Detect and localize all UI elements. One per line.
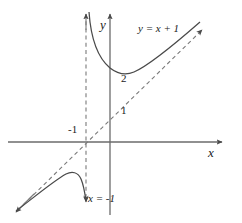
- y-tick-label-2: 2: [121, 73, 127, 84]
- y-tick-label-1: 1: [121, 105, 127, 116]
- x-tick-label-neg-1: -1: [68, 124, 77, 135]
- y-axis-label: y: [100, 18, 106, 31]
- vertical-asymptote-equation-label: x = -1: [88, 193, 115, 204]
- x-axis-label: x: [208, 146, 214, 159]
- graph-figure: y x y = x + 1 x = -1 2 1 -1: [0, 0, 242, 223]
- oblique-asymptote-equation-label: y = x + 1: [138, 23, 179, 34]
